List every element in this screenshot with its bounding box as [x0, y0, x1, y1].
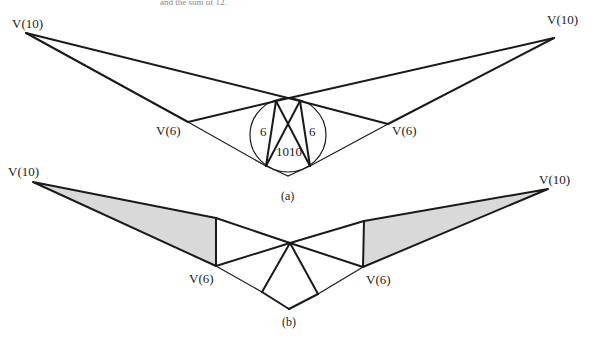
graph-diagram: and the sum of 12. V(10) V(10) V(6) V(6)… [0, 0, 596, 343]
label-a-right-v6: V(6) [392, 123, 417, 138]
edge-b-right-top-to-apex [290, 221, 364, 243]
label-chord-right: 6 [309, 124, 316, 139]
edge-a-bottom-right [288, 166, 310, 176]
label-b-right-v10: V(10) [539, 172, 570, 187]
caption-a: (a) [281, 189, 294, 203]
label-a-left-v10: V(10) [12, 16, 43, 31]
label-b-left-v6: V(6) [189, 271, 214, 286]
label-b-right-v6: V(6) [366, 272, 391, 287]
edge-a-left-v10-to-left-v6 [26, 33, 188, 122]
caption-b: (b) [282, 315, 296, 329]
figure-a: V(10) V(10) V(6) V(6) 6 6 1010 (a) [12, 12, 578, 203]
shaded-region-right [363, 189, 548, 267]
label-a-left-v6: V(6) [156, 123, 181, 138]
edge-a-left-v6-to-bottom-left [188, 122, 266, 166]
edge-a-right-v6-to-top-right [300, 101, 388, 124]
edge-a-bottom-left [266, 166, 288, 176]
label-chord-center: 1010 [276, 144, 302, 159]
edge-b-left-v6-to-bottom-left [216, 266, 262, 292]
edge-a-right-v10-to-right-v6 [388, 38, 554, 124]
edge-b-left-top-to-apex [216, 218, 290, 243]
edge-a-right-v6-to-bottom-right [310, 124, 388, 166]
label-b-left-v10: V(10) [8, 164, 39, 179]
edge-a-left-v6-to-top-left [188, 101, 276, 122]
cropped-text: and the sum of 12. [160, 0, 227, 7]
edge-b-bottom-right [289, 294, 318, 309]
edge-b-bottom-left [262, 292, 289, 309]
label-chord-left: 6 [260, 124, 267, 139]
edge-a-right-v10-to-top-left [276, 38, 554, 101]
edge-b-right-v6-to-bottom-right [318, 267, 363, 294]
label-a-right-v10: V(10) [547, 12, 578, 27]
edge-a-left-v10-to-top-right [26, 33, 300, 101]
shaded-region-left [33, 182, 216, 266]
